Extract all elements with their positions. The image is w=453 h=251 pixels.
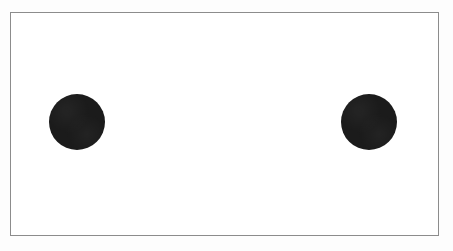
figure-canvas xyxy=(11,13,438,235)
left-dot xyxy=(49,94,105,150)
figure-stage: Two solid black circles of equal size pl… xyxy=(0,0,453,251)
figure-frame xyxy=(10,12,439,236)
right-dot xyxy=(341,94,397,150)
